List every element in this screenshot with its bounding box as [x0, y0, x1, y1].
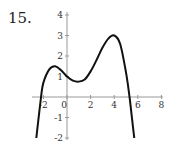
tick-labels: -202468-2-11234: [39, 10, 165, 143]
x-tick-label: 0: [61, 100, 67, 110]
y-tick-label: 4: [57, 10, 63, 20]
x-tick-label: 6: [135, 100, 141, 110]
y-tick-label: -2: [54, 133, 63, 143]
axes: [32, 12, 163, 140]
function-curve: [36, 35, 134, 138]
y-tick-label: 1: [57, 72, 63, 82]
function-graph: -202468-2-11234: [0, 0, 173, 147]
x-tick-label: 8: [159, 100, 165, 110]
y-tick-label: -1: [54, 113, 63, 123]
x-tick-label: 4: [111, 100, 117, 110]
x-tick-label: 2: [88, 100, 94, 110]
y-tick-label: 2: [57, 51, 63, 61]
y-tick-label: 3: [57, 31, 63, 41]
